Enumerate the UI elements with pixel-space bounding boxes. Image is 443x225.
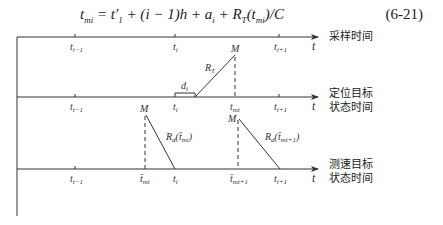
- point-m-velocity-2: M: [227, 113, 237, 124]
- range-label-rd-mi-plus-1: Rd(t̄mi+1): [264, 131, 300, 144]
- axis-label-positioning-line1: 定位目标: [329, 86, 373, 100]
- range-line-rt: [195, 55, 235, 97]
- tick-label-tbar-mi-plus-1: t̄mi+1: [230, 173, 248, 186]
- point-m-velocity-1: M: [139, 103, 149, 114]
- tick-label-t-i: ti: [173, 173, 178, 186]
- timing-diagram: ti−1 ti ti+1 t 采样时间 di RT M ti−1 ti tmi …: [0, 0, 443, 225]
- axis-label-velocity-line2: 状态时间: [329, 171, 373, 185]
- point-m-positioning: M: [230, 43, 240, 54]
- delay-label-d-i: di: [181, 80, 188, 93]
- axis-label-sampling-time: 采样时间: [329, 29, 373, 43]
- axis-positioning-time: di RT M ti−1 ti tmi ti+1 t 定位目标 状态时间: [17, 43, 373, 114]
- tick-label-t-i-minus-1: ti−1: [70, 173, 83, 186]
- tick-label-t-i-plus-1: ti+1: [274, 101, 287, 114]
- tick-label-t-i-plus-1: ti+1: [274, 173, 287, 186]
- axis-sampling-time: ti−1 ti ti+1 t 采样时间: [17, 29, 373, 54]
- axis-var-t: t: [312, 39, 316, 53]
- tick-label-t-i: ti: [173, 101, 178, 114]
- range-line-rd-1: [146, 115, 175, 169]
- range-line-rd-2: [239, 119, 280, 169]
- axis-label-velocity-line1: 测速目标: [329, 157, 373, 171]
- axis-var-t: t: [312, 171, 316, 185]
- tick-label-t-i-minus-1: ti−1: [70, 41, 83, 54]
- tick-label-t-i-minus-1: ti−1: [70, 101, 83, 114]
- tick-label-t-i-plus-1: ti+1: [274, 41, 287, 54]
- range-label-rd-mi: Rd(t̄mi): [165, 131, 193, 144]
- tick-label-tbar-mi: t̄mi: [140, 173, 150, 186]
- axis-velocity-time: M Rd(t̄mi) M Rd(t̄mi+1) ti−1 t̄mi ti t̄m…: [17, 103, 373, 186]
- tick-label-t-i: ti: [173, 41, 178, 54]
- axis-label-positioning-line2: 状态时间: [329, 100, 373, 114]
- delay-bracket: [175, 93, 195, 97]
- range-label-rt: RT: [204, 62, 216, 75]
- axis-var-t: t: [312, 99, 316, 113]
